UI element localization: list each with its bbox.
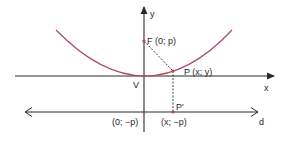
vertex-point xyxy=(142,74,145,77)
directrix-origin-label: (0; −p) xyxy=(112,117,138,127)
focus-label: F (0; p) xyxy=(147,36,176,46)
directrix-projection-label: (x; −p) xyxy=(161,117,187,127)
x-axis-label: x xyxy=(264,83,269,93)
focus-point xyxy=(142,39,145,42)
directrix-label: d xyxy=(259,117,264,127)
parabola-diagram: y x d F (0; p) P (x; y) V P' (0; −p) (x;… xyxy=(0,0,290,145)
directrix-projection-point xyxy=(171,110,174,113)
point-p-label: P (x; y) xyxy=(184,67,212,77)
parabola-point-p xyxy=(171,69,174,72)
projection-label: P' xyxy=(176,102,184,112)
vertex-label: V xyxy=(133,80,139,90)
y-axis-label: y xyxy=(150,9,155,19)
directrix-origin-point xyxy=(142,110,145,113)
